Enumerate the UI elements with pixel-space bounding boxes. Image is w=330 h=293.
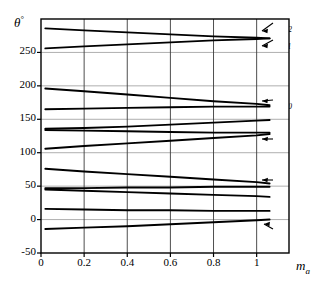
plot-canvas — [0, 0, 330, 293]
chart-figure: θ° ma -50050100150200250 00.20.40.60.81 … — [0, 0, 330, 293]
